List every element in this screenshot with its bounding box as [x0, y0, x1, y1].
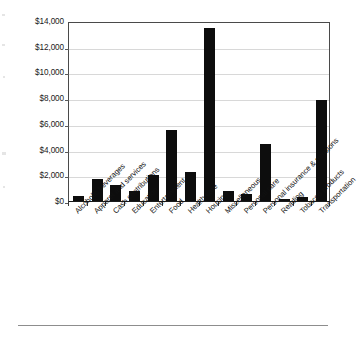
y-axis-tick-label: $6,000: [40, 120, 64, 129]
x-axis-tick-mark: [105, 202, 106, 206]
bar: [223, 191, 234, 201]
bar: [316, 100, 327, 201]
plot-area: [68, 22, 330, 202]
x-axis-tick-mark: [329, 202, 330, 206]
x-axis-tick-mark: [180, 202, 181, 206]
gridline: [69, 100, 329, 101]
bar: [185, 172, 196, 201]
y-axis-tick-mark: [65, 177, 69, 178]
bar-chart: $0$2,000$4,000$6,000$8,000$10,000$12,000…: [0, 0, 346, 310]
y-axis-tick-label: $8,000: [40, 94, 64, 103]
x-axis-tick-mark: [236, 202, 237, 206]
x-axis-tick-mark: [87, 202, 88, 206]
bar: [73, 196, 84, 201]
y-axis-tick-label: $4,000: [40, 146, 64, 155]
y-axis-tick-label: $14,000: [35, 17, 64, 26]
y-axis-labels: $0$2,000$4,000$6,000$8,000$10,000$12,000…: [0, 0, 64, 202]
y-axis-tick-mark: [65, 74, 69, 75]
gridline: [69, 126, 329, 127]
x-axis-tick-mark: [124, 202, 125, 206]
gridline: [69, 152, 329, 153]
x-axis-tick-mark: [274, 202, 275, 206]
gridline: [69, 74, 329, 75]
y-axis-tick-mark: [65, 152, 69, 153]
x-axis-tick-mark: [143, 202, 144, 206]
y-axis-tick-label: $12,000: [35, 43, 64, 52]
x-axis-tick-mark: [218, 202, 219, 206]
bar: [110, 185, 121, 201]
x-axis-tick-mark: [162, 202, 163, 206]
y-axis-tick-label: $10,000: [35, 68, 64, 77]
x-axis-tick-mark: [199, 202, 200, 206]
gridline: [69, 49, 329, 50]
bar: [166, 130, 177, 201]
y-axis-tick-label: $0: [55, 197, 64, 206]
bar: [92, 179, 103, 202]
x-axis-tick-mark: [293, 202, 294, 206]
x-axis-tick-mark: [255, 202, 256, 206]
bar: [241, 194, 252, 201]
gridline: [69, 177, 329, 178]
x-axis-tick-mark: [68, 202, 69, 206]
bar: [297, 197, 308, 201]
x-axis-ticks: [68, 202, 330, 207]
y-axis-tick-mark: [65, 49, 69, 50]
bar: [129, 191, 140, 201]
bar: [204, 28, 215, 201]
y-axis-tick-label: $2,000: [40, 171, 64, 180]
y-axis-tick-mark: [65, 100, 69, 101]
page-horizontal-rule: [18, 325, 328, 326]
bar: [279, 199, 290, 201]
y-axis-tick-mark: [65, 126, 69, 127]
bar: [148, 175, 159, 201]
bar: [260, 144, 271, 201]
x-axis-tick-mark: [311, 202, 312, 206]
